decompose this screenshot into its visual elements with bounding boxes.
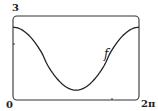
function-curve-f bbox=[13, 27, 139, 90]
x-max-label: 2π bbox=[141, 99, 155, 109]
plot-area bbox=[0, 0, 158, 111]
curve-label-f: f bbox=[104, 48, 108, 60]
plot-frame bbox=[13, 16, 139, 100]
y-max-label: 3 bbox=[12, 3, 19, 13]
origin-label: 0 bbox=[6, 100, 13, 110]
